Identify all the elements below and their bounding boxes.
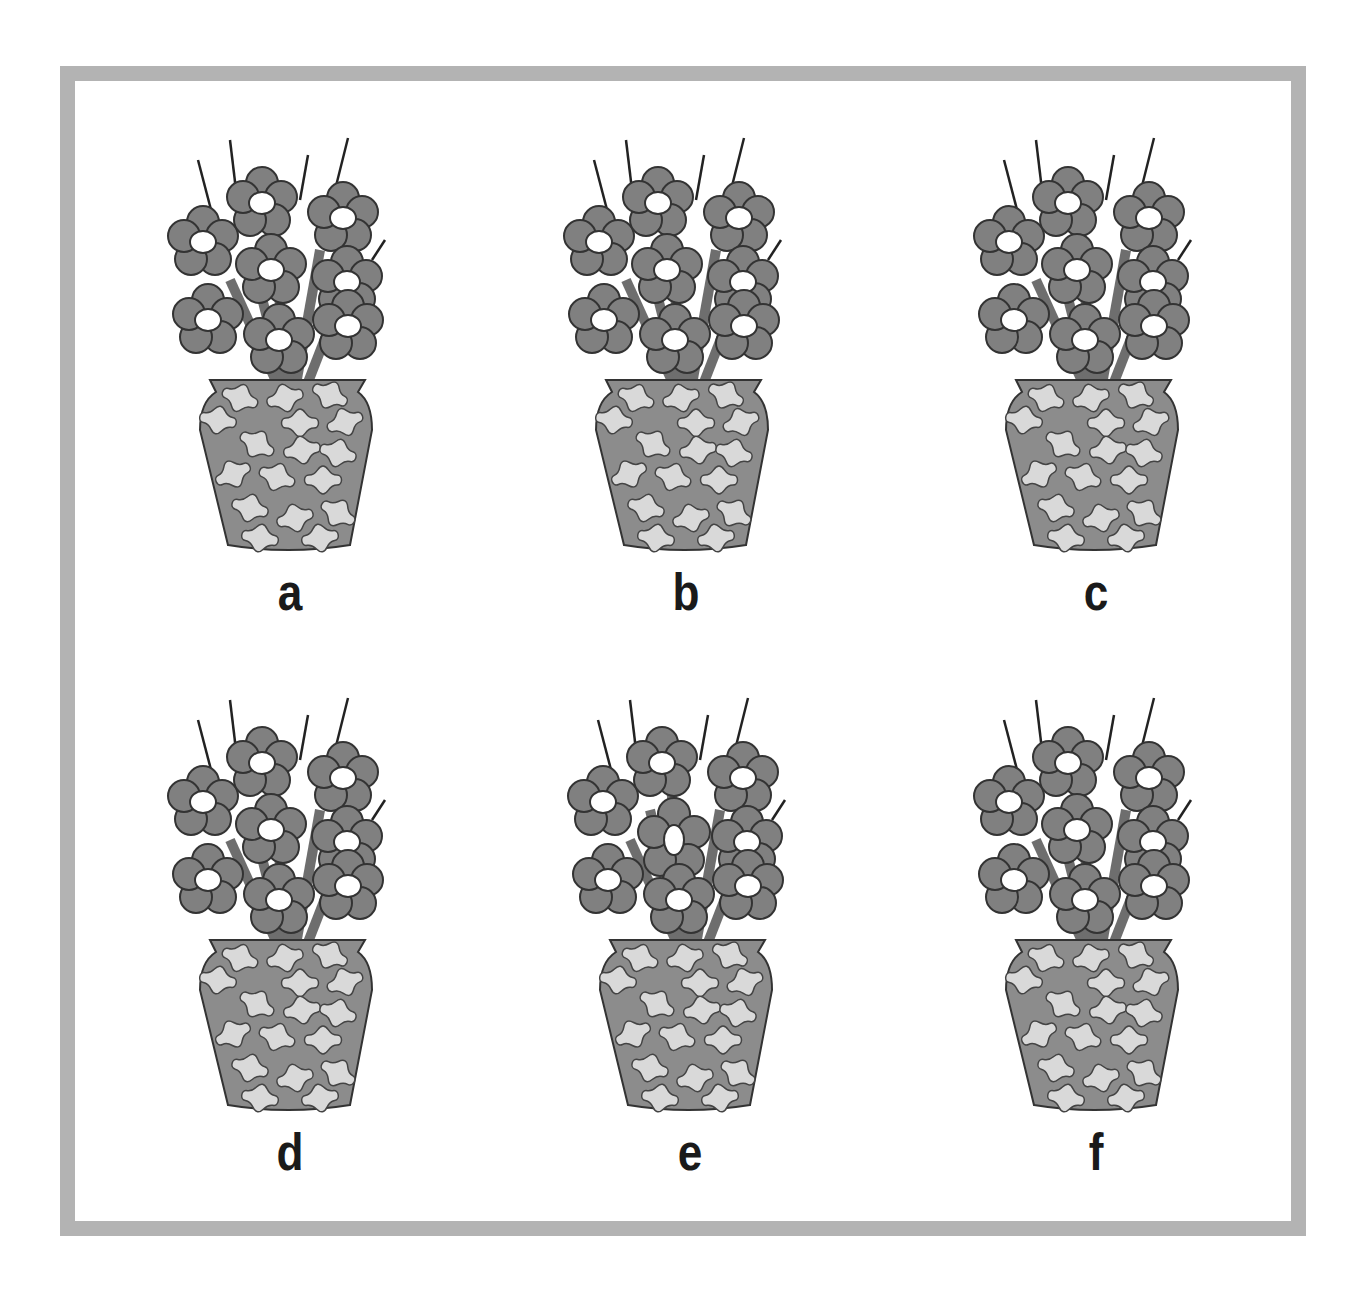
flower-vase-illustration: [540, 690, 840, 1130]
option-label: e: [563, 1122, 818, 1182]
option-d[interactable]: d: [140, 690, 440, 1190]
flower-vase-illustration: [946, 690, 1246, 1130]
option-c[interactable]: c: [946, 130, 1246, 630]
flower-vase-illustration: [140, 130, 440, 570]
option-e[interactable]: e: [540, 690, 840, 1190]
flower-vase-illustration: [140, 690, 440, 1130]
option-label: f: [969, 1122, 1224, 1182]
option-f[interactable]: f: [946, 690, 1246, 1190]
option-label: c: [969, 562, 1224, 622]
option-label: a: [163, 562, 418, 622]
option-a[interactable]: a: [140, 130, 440, 630]
option-label: d: [163, 1122, 418, 1182]
option-b[interactable]: b: [536, 130, 836, 630]
flower-vase-illustration: [536, 130, 836, 570]
flower-vase-illustration: [946, 130, 1246, 570]
option-label: b: [559, 562, 814, 622]
